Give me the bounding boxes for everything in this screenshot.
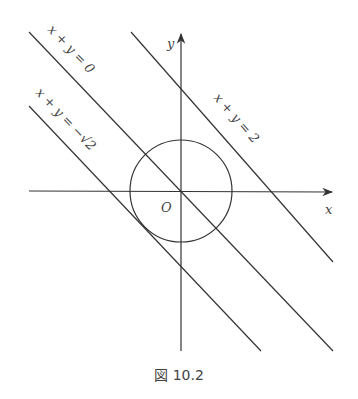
y-axis-label: y [166,36,175,51]
origin-label: O [161,200,172,215]
label-x-plus-y-eq-2: x + y = 2 [211,90,263,146]
diagram-canvas: y x O x + y = 0 x + y = −√2 x + y = 2 [0,0,358,399]
line-x-plus-y-eq-neg-sqrt2 [29,106,261,351]
figure-caption: 図 10.2 [0,364,358,384]
line-x-plus-y-eq-2 [131,32,333,262]
label-x-plus-y-eq-0: x + y = 0 [45,22,98,77]
x-axis-label: x [325,202,333,217]
